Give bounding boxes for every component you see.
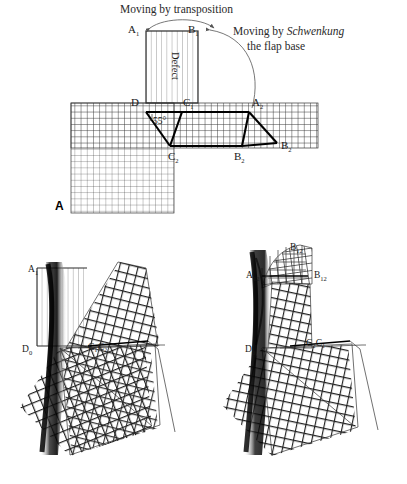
panel-bottom-left: A1 D0 C₁C₂ xyxy=(20,262,175,456)
bl-label-d0: D0 xyxy=(22,344,32,356)
transposition-arrow xyxy=(150,20,214,28)
label-d: D xyxy=(131,96,139,108)
annotation-transposition: Moving by transposition xyxy=(120,3,233,16)
label-c2: C2 xyxy=(168,150,179,164)
br-lower-mesh xyxy=(222,344,358,456)
angle-label-55: 55° xyxy=(153,116,167,126)
br-label-c2c1: C₂C₁ xyxy=(306,338,325,348)
defect-label: Defect xyxy=(170,52,181,80)
label-a1: A1 xyxy=(128,23,139,37)
schwenkung-word: Schwenkung xyxy=(287,25,345,38)
bl-label-c1c2: C₁C₂ xyxy=(88,342,107,352)
panel-letter-a: A xyxy=(55,199,64,213)
label-b2: B2 xyxy=(234,150,245,164)
br-label-b12: B12 xyxy=(314,270,327,282)
panel-bottom-right: B12 A12 B12 D0 C₂C₁ xyxy=(222,242,378,456)
label-a2: A2 xyxy=(252,96,263,110)
panel-a-diagram: Defect 55° A1 B1 D C1 A xyxy=(55,3,344,213)
panel-a-grid xyxy=(71,103,318,213)
bl-label-a1: A1 xyxy=(28,264,38,276)
annotation-schwenkung-line1: Moving by Schwenkung xyxy=(233,25,344,38)
annotation-schwenkung-line2: the flap base xyxy=(247,40,305,53)
label-b1: B1 xyxy=(188,23,199,37)
defect-region: Defect xyxy=(146,31,198,103)
figure-canvas: Defect 55° A1 B1 D C1 A xyxy=(0,0,407,484)
